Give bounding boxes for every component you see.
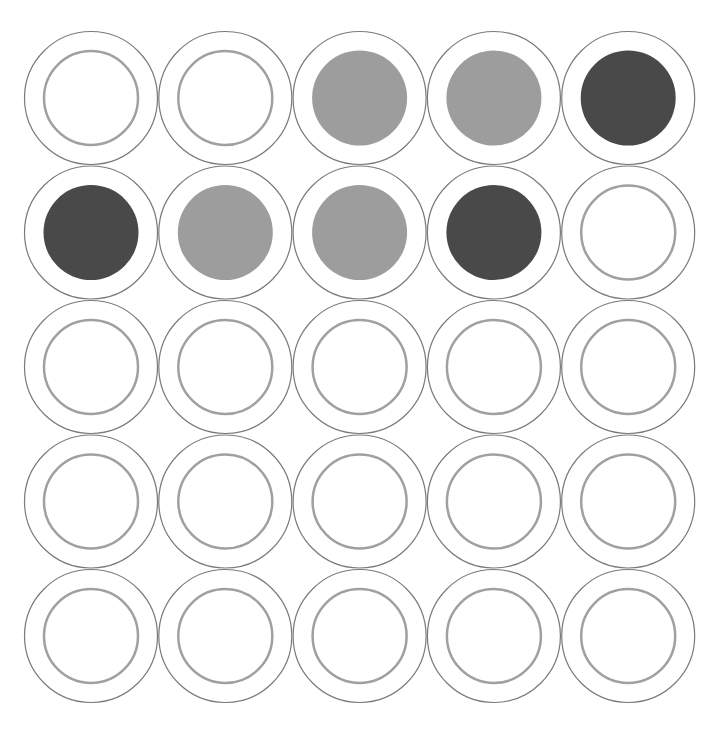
board-cell-r2-c1[interactable] (25, 166, 158, 299)
board-cell-r2-c5[interactable] (562, 166, 695, 299)
light-piece (178, 185, 273, 280)
board-cell-r1-c1[interactable] (25, 32, 158, 165)
board-cell-r1-c4[interactable] (427, 32, 560, 165)
board-cell-r4-c5[interactable] (562, 435, 695, 568)
light-piece (312, 185, 407, 280)
light-piece (446, 51, 541, 146)
board-cell-r3-c4[interactable] (427, 301, 560, 434)
board-cell-r1-c2[interactable] (159, 32, 292, 165)
board-cell-r3-c2[interactable] (159, 301, 292, 434)
dark-piece (44, 185, 139, 280)
board-cell-r5-c3[interactable] (293, 570, 426, 703)
board-cell-r4-c3[interactable] (293, 435, 426, 568)
light-piece (312, 51, 407, 146)
board-cell-r4-c2[interactable] (159, 435, 292, 568)
board-cell-r5-c5[interactable] (562, 570, 695, 703)
board-cell-r4-c1[interactable] (25, 435, 158, 568)
game-board (0, 0, 727, 741)
board-cell-r3-c3[interactable] (293, 301, 426, 434)
board-cell-r5-c1[interactable] (25, 570, 158, 703)
board-cell-r2-c3[interactable] (293, 166, 426, 299)
board-cell-r3-c1[interactable] (25, 301, 158, 434)
dark-piece (581, 51, 676, 146)
board-cell-r2-c4[interactable] (427, 166, 560, 299)
board-cell-r5-c4[interactable] (427, 570, 560, 703)
board-cell-r3-c5[interactable] (562, 301, 695, 434)
board-cell-r1-c3[interactable] (293, 32, 426, 165)
board-cell-r5-c2[interactable] (159, 570, 292, 703)
board-cell-r1-c5[interactable] (562, 32, 695, 165)
board-cell-r4-c4[interactable] (427, 435, 560, 568)
dark-piece (446, 185, 541, 280)
board-cell-r2-c2[interactable] (159, 166, 292, 299)
